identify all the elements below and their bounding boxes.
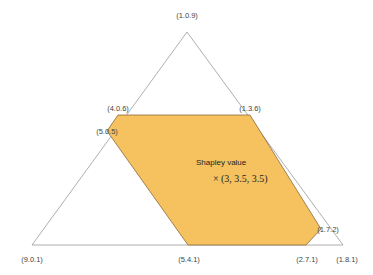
core-label-5-0-5: (5.0.5) (96, 127, 118, 136)
vertex-label-bottom-left: (9.0.1) (21, 255, 43, 264)
core-label-5-4-1: (5.4.1) (178, 255, 200, 264)
vertex-label-top: (1.0.9) (176, 11, 198, 20)
core-diagram: (1.0.9) (9.0.1) (1.8.1) (4.0.6) (1.3.6) … (0, 0, 373, 275)
core-label-1-7-2: (1.7.2) (317, 225, 339, 234)
shapley-title: Shapley value (196, 158, 247, 167)
core-label-2-7-1: (2.7.1) (296, 255, 318, 264)
vertex-label-bottom-right: (1.8.1) (336, 255, 358, 264)
core-label-4-0-6: (4.0.6) (107, 104, 129, 113)
shapley-marker-icon: × (213, 173, 219, 184)
core-label-1-3-6: (1.3.6) (239, 104, 261, 113)
shapley-value: (3, 3.5, 3.5) (221, 173, 268, 185)
